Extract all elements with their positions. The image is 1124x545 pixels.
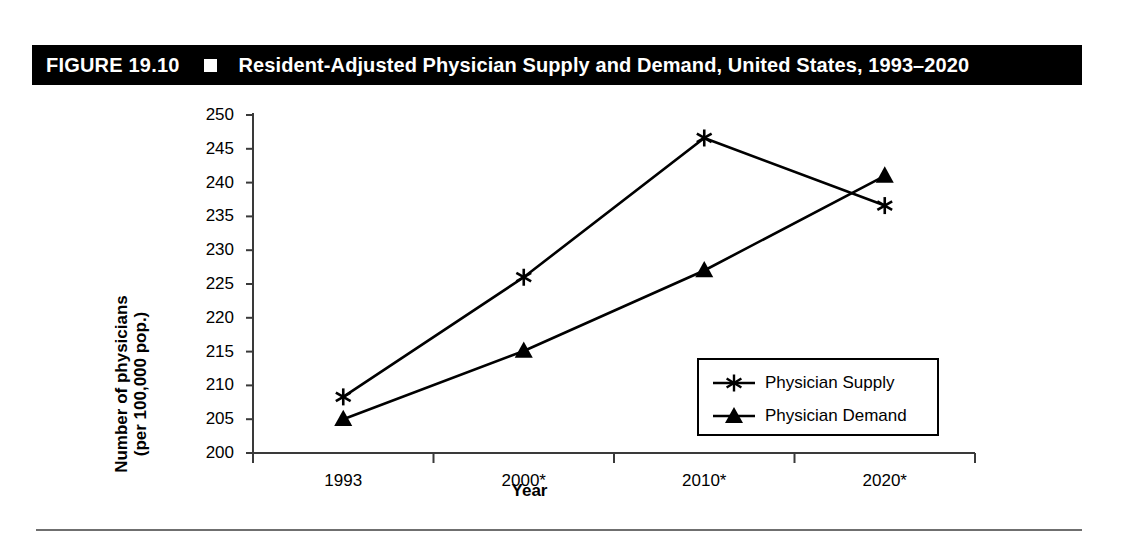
x-axis-title-text: Year xyxy=(512,481,548,501)
x-axis-tick-labels: 19932000*2010*2020* xyxy=(0,86,1124,506)
figure-title-banner: FIGURE 19.10 Resident-Adjusted Physician… xyxy=(32,45,1082,85)
figure-title-text: Resident-Adjusted Physician Supply and D… xyxy=(239,54,970,77)
filled-square-icon xyxy=(204,59,217,72)
figure-container: FIGURE 19.10 Resident-Adjusted Physician… xyxy=(0,0,1124,545)
legend-label-supply: Physician Supply xyxy=(757,373,894,393)
figure-bottom-rule xyxy=(36,529,1082,531)
asterisk-marker-icon xyxy=(711,372,757,394)
figure-number-label: FIGURE 19.10 xyxy=(46,54,180,77)
chart-legend: Physician Supply Physician Demand xyxy=(697,358,939,436)
triangle-marker-icon xyxy=(711,405,757,427)
legend-item-demand: Physician Demand xyxy=(699,399,937,432)
x-axis-title: Year xyxy=(0,481,1124,501)
line-chart: Number of physicians (per 100,000 pop.) … xyxy=(0,86,1124,506)
legend-label-demand: Physician Demand xyxy=(757,406,907,426)
legend-item-supply: Physician Supply xyxy=(699,366,937,399)
